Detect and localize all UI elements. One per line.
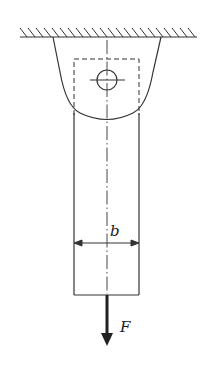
force-arrow-head [101, 333, 113, 346]
dimension-arrow-right [131, 240, 139, 246]
bar [74, 113, 139, 295]
hanging-bar-diagram: b F [0, 0, 202, 372]
width-label: b [110, 222, 120, 240]
ceiling-hatching [20, 28, 195, 37]
force-arrow [101, 295, 113, 346]
dimension-arrow-left [74, 240, 82, 246]
width-dimension [74, 240, 139, 246]
force-label: F [119, 318, 131, 336]
pin-hole [90, 70, 125, 90]
ceiling-support [20, 28, 197, 37]
dashed-inner-outline [74, 59, 139, 115]
